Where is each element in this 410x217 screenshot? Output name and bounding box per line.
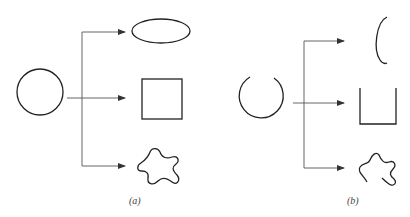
- source-circle-open: [239, 77, 283, 118]
- target-ellipse: [132, 19, 190, 43]
- target-open-ellipse: [376, 17, 387, 63]
- panel-b-label: (b): [347, 195, 359, 206]
- target-blob-closed: [138, 149, 179, 184]
- target-open-square: [360, 88, 396, 124]
- diagram-canvas: [0, 0, 410, 217]
- target-open-blob: [359, 153, 395, 185]
- panel-a-label: (a): [129, 195, 141, 206]
- branch-arrows-a: [67, 32, 125, 166]
- source-circle-closed: [17, 69, 63, 115]
- target-square: [142, 79, 182, 119]
- panel-b: [239, 17, 396, 185]
- branch-arrows-b: [293, 41, 344, 168]
- panel-a: [17, 19, 190, 184]
